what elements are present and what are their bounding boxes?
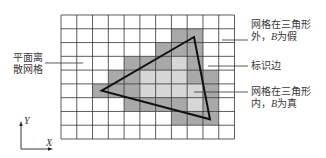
- grid-cell-outside: [77, 125, 93, 139]
- grid-cell-outside: [61, 15, 77, 29]
- grid-cells: [61, 15, 235, 139]
- grid-cell-outside: [77, 43, 93, 57]
- label-inside: 网格在三角形 内，B为真: [251, 86, 311, 110]
- label-inside-line2: 内，B为真: [251, 98, 311, 110]
- grid-cell-outside: [93, 29, 109, 43]
- grid-cell-outside: [140, 29, 156, 43]
- label-plane-grid: 平面离 散网格: [13, 52, 43, 76]
- grid-cell-outside: [219, 84, 235, 98]
- grid-cell-outside: [108, 111, 124, 125]
- grid-cell-outside: [140, 15, 156, 29]
- grid-cell-outside: [77, 98, 93, 112]
- grid-cell-outside: [93, 125, 109, 139]
- grid-cell-outside: [203, 29, 219, 43]
- grid-cell-outside: [108, 43, 124, 57]
- y-axis-label: Y: [24, 115, 30, 126]
- grid-cell-outside: [203, 15, 219, 29]
- grid-cell-outside: [124, 43, 140, 57]
- grid-cell-outside: [93, 15, 109, 29]
- grid-cell-outside: [124, 111, 140, 125]
- grid-cell-outside: [219, 125, 235, 139]
- grid-cell-outside: [156, 111, 172, 125]
- grid-cell-outside: [77, 15, 93, 29]
- grid-cell-outside: [93, 43, 109, 57]
- grid-cell-outside: [156, 29, 172, 43]
- grid-cell-outside: [219, 56, 235, 70]
- grid-cell-outside: [203, 56, 219, 70]
- grid-cell-inside: [171, 70, 187, 84]
- grid-cell-inside: [171, 56, 187, 70]
- grid-cell-edge: [124, 84, 140, 98]
- grid-cell-outside: [124, 125, 140, 139]
- label-edge: 标识边: [251, 60, 281, 72]
- label-outside-suffix: 为假: [277, 31, 297, 42]
- grid-cell-outside: [156, 125, 172, 139]
- label-inside-prefix: 内，: [251, 98, 271, 109]
- label-inside-line1: 网格在三角形: [251, 86, 311, 98]
- grid-cell-outside: [171, 15, 187, 29]
- grid-cell-inside: [171, 84, 187, 98]
- grid-cell-outside: [108, 15, 124, 29]
- grid-cell-edge: [171, 29, 187, 43]
- grid-cell-outside: [93, 56, 109, 70]
- grid-cell-inside: [187, 84, 203, 98]
- grid-cell-outside: [124, 29, 140, 43]
- grid-cell-outside: [140, 43, 156, 57]
- label-inside-suffix: 为真: [277, 98, 297, 109]
- grid-cell-outside: [108, 29, 124, 43]
- grid-cell-outside: [108, 98, 124, 112]
- grid-cell-outside: [77, 70, 93, 84]
- grid-cell-outside: [140, 125, 156, 139]
- grid-cell-outside: [61, 29, 77, 43]
- grid-cell-outside: [219, 29, 235, 43]
- grid-cell-outside: [61, 70, 77, 84]
- grid-cell-edge: [124, 56, 140, 70]
- grid-cell-outside: [61, 43, 77, 57]
- label-plane-grid-line2: 散网格: [13, 64, 43, 76]
- grid-cell-outside: [219, 70, 235, 84]
- grid-cell-outside: [203, 125, 219, 139]
- grid-cell-outside: [140, 111, 156, 125]
- grid-cell-inside: [187, 98, 203, 112]
- grid-cell-outside: [171, 125, 187, 139]
- grid-cell-outside: [93, 111, 109, 125]
- grid-cell-outside: [61, 84, 77, 98]
- grid-cell-outside: [77, 29, 93, 43]
- grid-cell-outside: [77, 111, 93, 125]
- label-plane-grid-line1: 平面离: [13, 52, 43, 64]
- grid-cell-outside: [219, 15, 235, 29]
- grid-cell-outside: [61, 111, 77, 125]
- x-axis-label: X: [46, 137, 52, 148]
- grid-cell-outside: [203, 43, 219, 57]
- grid-cell-outside: [219, 98, 235, 112]
- label-outside-line2: 外，B为假: [251, 31, 311, 43]
- label-outside-line1: 网格在三角形: [251, 19, 311, 31]
- grid-cell-outside: [108, 125, 124, 139]
- grid-cell-outside: [219, 111, 235, 125]
- label-outside: 网格在三角形 外，B为假: [251, 19, 311, 43]
- grid-cell-outside: [156, 15, 172, 29]
- grid-cell-edge: [203, 70, 219, 84]
- grid-cell-outside: [61, 98, 77, 112]
- grid-cell-outside: [124, 15, 140, 29]
- grid-cell-outside: [93, 98, 109, 112]
- grid-cell-outside: [108, 56, 124, 70]
- grid-cell-outside: [61, 125, 77, 139]
- grid-cell-outside: [187, 125, 203, 139]
- grid-cell-outside: [93, 70, 109, 84]
- grid-cell-inside: [140, 70, 156, 84]
- grid-cell-inside: [140, 84, 156, 98]
- grid-cell-inside: [156, 84, 172, 98]
- grid-cell-outside: [77, 84, 93, 98]
- grid-cell-outside: [219, 43, 235, 57]
- grid-cell-inside: [156, 70, 172, 84]
- grid-cell-outside: [187, 15, 203, 29]
- label-outside-prefix: 外，: [251, 31, 271, 42]
- label-edge-text: 标识边: [251, 60, 281, 72]
